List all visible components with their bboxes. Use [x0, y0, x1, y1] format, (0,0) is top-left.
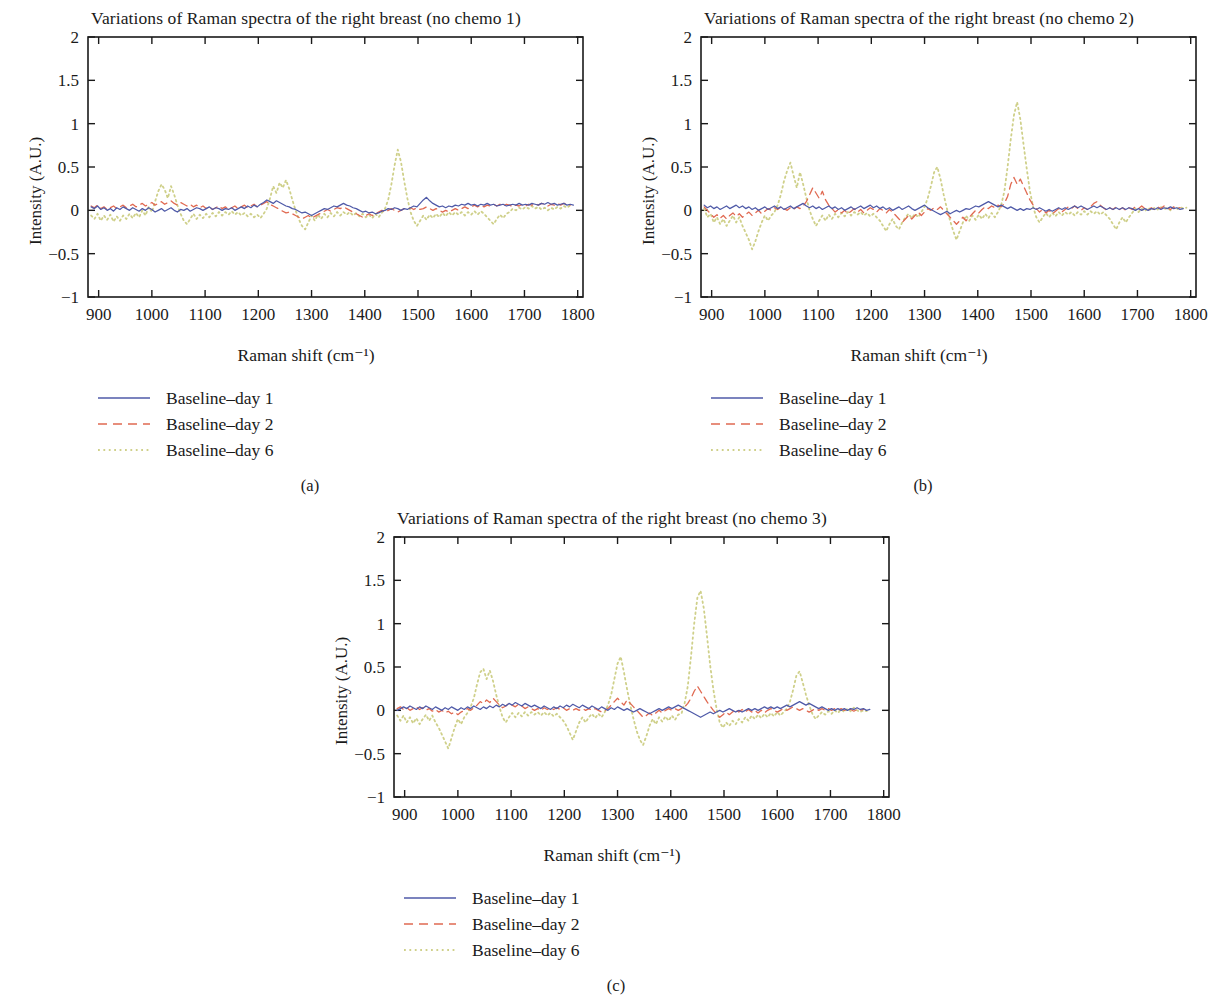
y-tick-label: −0.5 [661, 245, 692, 264]
legend-item[interactable]: Baseline–day 1 [402, 885, 579, 911]
y-tick-label: 2 [377, 528, 386, 547]
x-tick-label: 1700 [1120, 305, 1154, 324]
x-tick-label: 1300 [908, 305, 942, 324]
chart-title-a: Variations of Raman spectra of the right… [0, 8, 612, 29]
traces-group [91, 150, 573, 230]
plot-frame [701, 37, 1196, 297]
y-tick-label: 0.5 [671, 158, 692, 177]
y-tick-label: 1.5 [671, 71, 692, 90]
x-tick-label: 1300 [601, 805, 635, 824]
x-tick-label: 1000 [441, 805, 475, 824]
panel-a: Variations of Raman spectra of the right… [0, 0, 612, 500]
plot-area-a: 900100011001200130014001500160017001800−… [0, 30, 612, 320]
x-tick-label: 1800 [561, 305, 595, 324]
plot-area-c: 900100011001200130014001500160017001800−… [306, 530, 918, 820]
y-axis-label: Intensity (A.U.) [639, 137, 659, 245]
x-tick-label: 1700 [813, 805, 847, 824]
x-tick-label: 1400 [654, 805, 688, 824]
x-tick-label: 1600 [1067, 305, 1101, 324]
chart-title-b: Variations of Raman spectra of the right… [613, 8, 1225, 29]
y-tick-label: 0 [684, 201, 693, 220]
legend-item[interactable]: Baseline–day 2 [96, 411, 273, 437]
x-tick-label: 1800 [1174, 305, 1208, 324]
subcaption-a: (a) [280, 476, 340, 496]
legend-label: Baseline–day 2 [779, 414, 886, 435]
chart-svg-b: 900100011001200130014001500160017001800−… [613, 30, 1225, 320]
legend-label: Baseline–day 6 [166, 440, 273, 461]
legend-item[interactable]: Baseline–day 1 [709, 385, 886, 411]
x-tick-label: 1500 [401, 305, 435, 324]
legend-key-dashed-icon [402, 917, 458, 931]
legend-b: Baseline–day 1Baseline–day 2Baseline–day… [709, 385, 886, 463]
legend-key-solid-icon [402, 891, 458, 905]
y-tick-label: 1.5 [58, 71, 79, 90]
panel-c: Variations of Raman spectra of the right… [306, 500, 918, 1000]
x-axis-label-a: Raman shift (cm⁻¹) [0, 345, 612, 366]
chart-svg-a: 900100011001200130014001500160017001800−… [0, 30, 612, 320]
x-tick-label: 1400 [348, 305, 382, 324]
x-tick-label: 900 [392, 805, 418, 824]
legend-item[interactable]: Baseline–day 1 [96, 385, 273, 411]
x-tick-label: 1100 [188, 305, 221, 324]
x-tick-label: 1200 [854, 305, 888, 324]
legend-key-dotted-icon [96, 443, 152, 457]
x-tick-label: 1500 [707, 805, 741, 824]
y-axis-label: Intensity (A.U.) [26, 137, 46, 245]
traces-group [704, 102, 1186, 249]
y-tick-label: −0.5 [354, 745, 385, 764]
legend-item[interactable]: Baseline–day 2 [402, 911, 579, 937]
series-line-solid [91, 197, 573, 215]
legend-a: Baseline–day 1Baseline–day 2Baseline–day… [96, 385, 273, 463]
x-tick-label: 1600 [454, 305, 488, 324]
legend-label: Baseline–day 2 [472, 914, 579, 935]
series-line-dotted [397, 591, 866, 749]
y-tick-label: 0 [377, 701, 386, 720]
legend-label: Baseline–day 1 [166, 388, 273, 409]
y-tick-label: −0.5 [48, 245, 79, 264]
x-tick-label: 1100 [494, 805, 527, 824]
x-tick-label: 1100 [801, 305, 834, 324]
plot-area-b: 900100011001200130014001500160017001800−… [613, 30, 1225, 320]
traces-group [397, 591, 870, 749]
y-tick-label: 1 [71, 115, 80, 134]
legend-key-solid-icon [96, 391, 152, 405]
x-tick-label: 1200 [547, 805, 581, 824]
y-tick-label: 2 [684, 28, 693, 47]
chart-svg-c: 900100011001200130014001500160017001800−… [306, 530, 918, 820]
legend-key-dashed-icon [96, 417, 152, 431]
legend-label: Baseline–day 6 [779, 440, 886, 461]
x-tick-label: 1400 [961, 305, 995, 324]
y-tick-label: 2 [71, 28, 80, 47]
x-tick-label: 1000 [748, 305, 782, 324]
y-tick-label: 0.5 [364, 658, 385, 677]
legend-key-dashed-icon [709, 417, 765, 431]
x-tick-label: 1000 [135, 305, 169, 324]
legend-item[interactable]: Baseline–day 6 [96, 437, 273, 463]
y-tick-label: 0 [71, 201, 80, 220]
series-line-dotted [91, 150, 570, 230]
y-axis-label: Intensity (A.U.) [332, 637, 352, 745]
x-axis-label-c: Raman shift (cm⁻¹) [306, 845, 918, 866]
x-tick-label: 1700 [507, 305, 541, 324]
x-tick-label: 900 [699, 305, 725, 324]
legend-item[interactable]: Baseline–day 6 [402, 937, 579, 963]
x-tick-label: 1800 [867, 805, 901, 824]
subcaption-b: (b) [893, 476, 953, 496]
x-tick-label: 1300 [295, 305, 329, 324]
legend-item[interactable]: Baseline–day 2 [709, 411, 886, 437]
legend-c: Baseline–day 1Baseline–day 2Baseline–day… [402, 885, 579, 963]
y-tick-label: −1 [674, 288, 692, 307]
y-tick-label: −1 [61, 288, 79, 307]
x-tick-label: 1500 [1014, 305, 1048, 324]
legend-key-dotted-icon [402, 943, 458, 957]
x-tick-label: 1600 [760, 805, 794, 824]
x-axis-label-b: Raman shift (cm⁻¹) [613, 345, 1225, 366]
legend-key-dotted-icon [709, 443, 765, 457]
legend-item[interactable]: Baseline–day 6 [709, 437, 886, 463]
legend-label: Baseline–day 1 [472, 888, 579, 909]
panel-b: Variations of Raman spectra of the right… [613, 0, 1225, 500]
subcaption-c: (c) [586, 976, 646, 996]
chart-title-c: Variations of Raman spectra of the right… [306, 508, 918, 529]
legend-label: Baseline–day 1 [779, 388, 886, 409]
legend-label: Baseline–day 2 [166, 414, 273, 435]
